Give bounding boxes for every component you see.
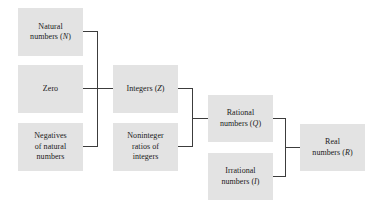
connector-natural-to-bus1 xyxy=(83,31,98,32)
node-noninteger-ratios-of-integers: Noninteger ratios of integers xyxy=(113,123,178,171)
node-label-negatives-of-natural-numbers: Negatives of natural numbers xyxy=(34,131,66,163)
node-label-integers: Integers (Z) xyxy=(126,84,164,95)
connector-zero-to-bus1 xyxy=(83,88,98,89)
number-classification-diagram: Natural numbers (N)ZeroNegatives of natu… xyxy=(0,0,374,209)
set-symbol-I: I xyxy=(254,177,257,186)
connector-bus1-vertical xyxy=(97,31,98,147)
connector-negatives-to-bus1 xyxy=(83,146,98,147)
node-label-natural-numbers: Natural numbers (N) xyxy=(30,22,71,43)
node-natural-numbers: Natural numbers (N) xyxy=(18,8,83,56)
connector-bus2-to-rational xyxy=(192,118,209,119)
node-label-noninteger-ratios-of-integers: Noninteger ratios of integers xyxy=(127,131,164,163)
set-symbol-Q: Q xyxy=(253,119,259,128)
node-zero: Zero xyxy=(18,65,83,113)
node-label-irrational-numbers: Irrational numbers (I) xyxy=(221,166,259,187)
connector-bus1-to-integers xyxy=(97,88,114,89)
node-rational-numbers: Rational numbers (Q) xyxy=(208,95,273,142)
node-real-numbers: Real numbers (R) xyxy=(300,124,365,171)
set-symbol-N: N xyxy=(63,32,68,41)
node-label-rational-numbers: Rational numbers (Q) xyxy=(220,108,261,129)
node-label-zero: Zero xyxy=(43,84,58,95)
node-label-real-numbers: Real numbers (R) xyxy=(312,137,352,158)
connector-bus3-to-real xyxy=(285,147,301,148)
node-negatives-of-natural-numbers: Negatives of natural numbers xyxy=(18,123,83,171)
set-symbol-Z: Z xyxy=(157,84,162,93)
node-irrational-numbers: Irrational numbers (I) xyxy=(208,153,273,200)
connector-noninteger-to-bus2 xyxy=(178,146,193,147)
node-integers: Integers (Z) xyxy=(113,65,178,113)
set-symbol-R: R xyxy=(345,148,350,157)
connector-integers-to-bus2 xyxy=(178,88,193,89)
